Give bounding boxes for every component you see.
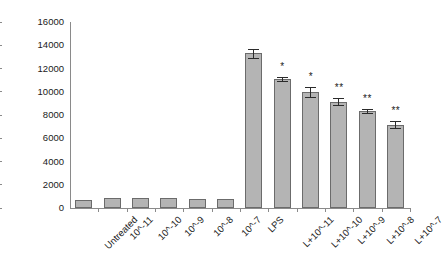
error-bar-cap-top bbox=[277, 77, 288, 78]
x-tick-mark bbox=[353, 208, 354, 212]
y-tick-mark bbox=[0, 22, 2, 23]
y-tick-mark bbox=[0, 68, 2, 69]
x-tick-mark bbox=[240, 208, 241, 212]
y-tick-label: 12000 bbox=[2, 63, 64, 75]
error-bar-cap-bottom bbox=[362, 113, 373, 114]
x-tick-label: L+10^-7 bbox=[412, 214, 444, 246]
bar-group[interactable] bbox=[100, 22, 126, 208]
y-tick-mark bbox=[0, 115, 2, 116]
bar-group[interactable]: ** bbox=[383, 22, 409, 208]
bar-group[interactable]: * bbox=[270, 22, 296, 208]
y-tick-mark bbox=[0, 208, 2, 209]
y-tick-label: 6000 bbox=[2, 132, 64, 144]
x-tick-mark bbox=[268, 208, 269, 212]
bar-group[interactable] bbox=[213, 22, 239, 208]
x-tick-mark bbox=[212, 208, 213, 212]
error-bar-cap-top bbox=[305, 87, 316, 88]
y-tick-mark bbox=[0, 138, 2, 139]
x-tick-mark bbox=[127, 208, 128, 212]
y-tick-label: 4000 bbox=[2, 156, 64, 168]
bar-group[interactable]: ** bbox=[326, 22, 352, 208]
error-bar-cap-top bbox=[248, 49, 259, 50]
significance-marker: ** bbox=[326, 83, 352, 93]
error-bar-cap-bottom bbox=[305, 97, 316, 98]
x-tick-label: 10^-7 bbox=[239, 214, 263, 238]
x-tick-mark bbox=[183, 208, 184, 212]
y-tick-label: 0 bbox=[2, 202, 64, 214]
bar[interactable] bbox=[274, 79, 291, 208]
bar-group[interactable] bbox=[128, 22, 154, 208]
significance-marker: ** bbox=[355, 94, 381, 104]
bar-group[interactable] bbox=[241, 22, 267, 208]
y-tick-mark bbox=[0, 184, 2, 185]
error-bar-cap-bottom bbox=[390, 128, 401, 129]
bar-group[interactable]: * bbox=[298, 22, 324, 208]
error-bar bbox=[338, 98, 339, 105]
y-tick-label: 10000 bbox=[2, 86, 64, 98]
bar[interactable] bbox=[330, 102, 347, 208]
error-bar bbox=[253, 49, 254, 59]
bar[interactable] bbox=[104, 198, 121, 208]
x-tick-label: 10^-8 bbox=[210, 214, 234, 238]
error-bar-cap-top bbox=[362, 109, 373, 110]
plot-area: 1600014000120001000080006000400020000 **… bbox=[70, 22, 410, 208]
bar[interactable] bbox=[189, 199, 206, 208]
y-tick-label: 2000 bbox=[2, 179, 64, 191]
x-tick-mark bbox=[98, 208, 99, 212]
error-bar bbox=[310, 87, 311, 97]
error-bar-cap-top bbox=[390, 121, 401, 122]
bar[interactable] bbox=[75, 200, 92, 208]
error-bar-cap-top bbox=[333, 98, 344, 99]
y-tick-label: 14000 bbox=[2, 39, 64, 51]
x-tick-label: 10^-9 bbox=[182, 214, 206, 238]
bar-group[interactable] bbox=[71, 22, 97, 208]
error-bar-cap-bottom bbox=[333, 105, 344, 106]
bar-group[interactable] bbox=[185, 22, 211, 208]
bar[interactable] bbox=[160, 198, 177, 208]
bar[interactable] bbox=[302, 92, 319, 208]
x-tick-label: LPS bbox=[265, 214, 285, 234]
x-tick-mark bbox=[325, 208, 326, 212]
bar[interactable] bbox=[245, 53, 262, 208]
y-tick-label: 8000 bbox=[2, 109, 64, 121]
significance-marker: * bbox=[298, 72, 324, 82]
x-tick-mark bbox=[297, 208, 298, 212]
x-tick-mark bbox=[382, 208, 383, 212]
bar-group[interactable]: ** bbox=[355, 22, 381, 208]
bar[interactable] bbox=[217, 199, 234, 208]
y-tick-label: 16000 bbox=[2, 16, 64, 28]
y-tick-mark bbox=[0, 91, 2, 92]
error-bar-cap-bottom bbox=[248, 58, 259, 59]
error-bar bbox=[395, 121, 396, 128]
y-tick-mark bbox=[0, 45, 2, 46]
error-bar-cap-bottom bbox=[277, 81, 288, 82]
bar[interactable] bbox=[387, 125, 404, 208]
x-tick-mark bbox=[410, 208, 411, 212]
bar[interactable] bbox=[132, 198, 149, 208]
bar-group[interactable] bbox=[156, 22, 182, 208]
x-tick-label: L+10^-8 bbox=[384, 214, 416, 246]
x-tick-label: 10^-10 bbox=[155, 214, 183, 242]
x-tick-mark bbox=[155, 208, 156, 212]
bar[interactable] bbox=[359, 111, 376, 208]
significance-marker: ** bbox=[383, 106, 409, 116]
y-tick-mark bbox=[0, 161, 2, 162]
significance-marker: * bbox=[270, 62, 296, 72]
